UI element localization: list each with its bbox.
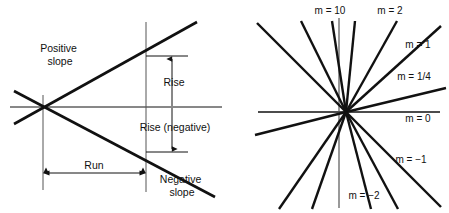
left-panel: Positive slope Negative slope Rise Rise …	[10, 22, 222, 198]
positive-slope-line	[14, 22, 197, 124]
m-label-1: m = 1	[405, 39, 431, 50]
rise-label: Rise	[163, 76, 184, 88]
run-label: Run	[84, 159, 103, 171]
negative-slope-label: Negative slope	[160, 173, 204, 198]
ray-m-neg1	[257, 23, 346, 112]
m-label-2: m = 2	[377, 5, 403, 16]
run-arrow-head-left	[43, 170, 50, 175]
m-label-0: m = 0	[405, 113, 431, 124]
run-arrow-head-right	[140, 170, 147, 175]
right-panel: m = 10 m = 2 m = 1 m = 1/4 m = 0 m = −1 …	[255, 5, 446, 209]
m-label-neg1: m = −1	[395, 154, 427, 165]
figure-canvas: Positive slope Negative slope Rise Rise …	[0, 0, 449, 213]
rise-negative-label: Rise (negative)	[140, 121, 211, 133]
slope-figure: Positive slope Negative slope Rise Rise …	[0, 0, 449, 213]
positive-slope-label: Positive slope	[40, 42, 80, 67]
ray-m-neg2-lower	[312, 112, 346, 209]
m-label-10: m = 10	[315, 5, 346, 16]
m-label-neg2: m = −2	[348, 190, 380, 201]
m-label-quarter: m = 1/4	[397, 71, 431, 82]
